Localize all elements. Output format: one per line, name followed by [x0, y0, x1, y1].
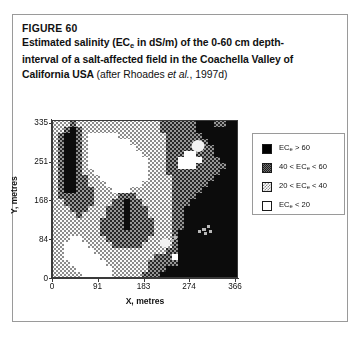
salinity-contour-map: [52, 120, 238, 278]
salinity-map-plot: [52, 120, 238, 278]
y-tick-mark-168: [49, 200, 52, 201]
y-tick-mark-84: [49, 239, 52, 240]
caption-line-1: Estimated salinity (ECe in dS/m) of the …: [22, 36, 340, 53]
x-tick-mark-0: [52, 279, 53, 282]
caption-line-3-year: , 1997d): [190, 69, 228, 80]
x-tick-mark-91: [98, 279, 99, 282]
legend-swatch-ec-20-40: [262, 182, 272, 192]
y-tick-251: 251: [26, 157, 48, 166]
x-tick-mark-366: [235, 279, 236, 282]
x-tick-mark-274: [189, 279, 190, 282]
legend-swatch-ec-below-20: [262, 201, 272, 211]
x-axis-line: [51, 278, 239, 279]
x-tick-183: 183: [124, 282, 164, 291]
legend-label-prefix: EC: [279, 200, 290, 209]
y-tick-168: 168: [26, 196, 48, 205]
legend-label-suffix: < 40: [310, 181, 327, 190]
legend-swatch-ec-above-60: [262, 144, 272, 154]
legend-swatch-ec-40-60: [262, 163, 272, 173]
legend-label-prefix: 40 < EC: [279, 162, 307, 171]
legend-item-ec-40-60: 40 < ECe < 60: [262, 162, 327, 173]
caption-line-3: California USA (after Rhoades et al., 19…: [22, 68, 340, 82]
y-tick-mark-251: [49, 162, 52, 163]
x-tick-mark-183: [144, 279, 145, 282]
legend-label-prefix: EC: [279, 143, 290, 152]
x-axis-tick-labels: 091183274366: [0, 282, 361, 294]
legend-item-ec-below-20: ECe < 20: [262, 200, 310, 211]
legend-label-ec-below-20: ECe < 20: [279, 200, 310, 211]
x-tick-91: 91: [78, 282, 118, 291]
legend-box: ECe > 6040 < ECe < 6020 < ECe < 40ECe < …: [252, 133, 345, 215]
y-tick-mark-335: [49, 123, 52, 124]
legend-label-suffix: > 60: [293, 143, 310, 152]
y-axis-title: Y, metres: [9, 165, 19, 225]
legend-label-suffix: < 60: [310, 162, 327, 171]
y-axis-line: [51, 119, 52, 279]
caption-line-1-rest: in dS/m) of the 0-60 cm depth-: [134, 37, 284, 48]
x-tick-274: 274: [169, 282, 209, 291]
x-tick-0: 0: [32, 282, 72, 291]
legend-item-ec-above-60: ECe > 60: [262, 143, 310, 154]
caption-line-3-ref-open: (after Rhoades: [97, 69, 168, 80]
figure-root: FIGURE 60 Estimated salinity (ECe in dS/…: [0, 0, 361, 337]
y-tick-335: 335: [26, 118, 48, 127]
legend-label-ec-above-60: ECe > 60: [279, 143, 310, 154]
legend-label-suffix: < 20: [293, 200, 310, 209]
caption-line-3-etal: et al.: [167, 69, 189, 80]
legend-label-ec-40-60: 40 < ECe < 60: [279, 162, 327, 173]
y-tick-84: 84: [26, 235, 48, 244]
x-axis-title: X, metres: [52, 296, 238, 306]
caption-line-2: interval of a salt-affected field in the…: [22, 53, 340, 67]
legend-label-ec-20-40: 20 < ECe < 40: [279, 181, 327, 192]
figure-label: FIGURE 60: [22, 22, 340, 36]
figure-caption: FIGURE 60 Estimated salinity (ECe in dS/…: [22, 22, 340, 82]
legend-label-prefix: 20 < EC: [279, 181, 307, 190]
legend-item-ec-20-40: 20 < ECe < 40: [262, 181, 327, 192]
x-tick-366: 366: [215, 282, 255, 291]
